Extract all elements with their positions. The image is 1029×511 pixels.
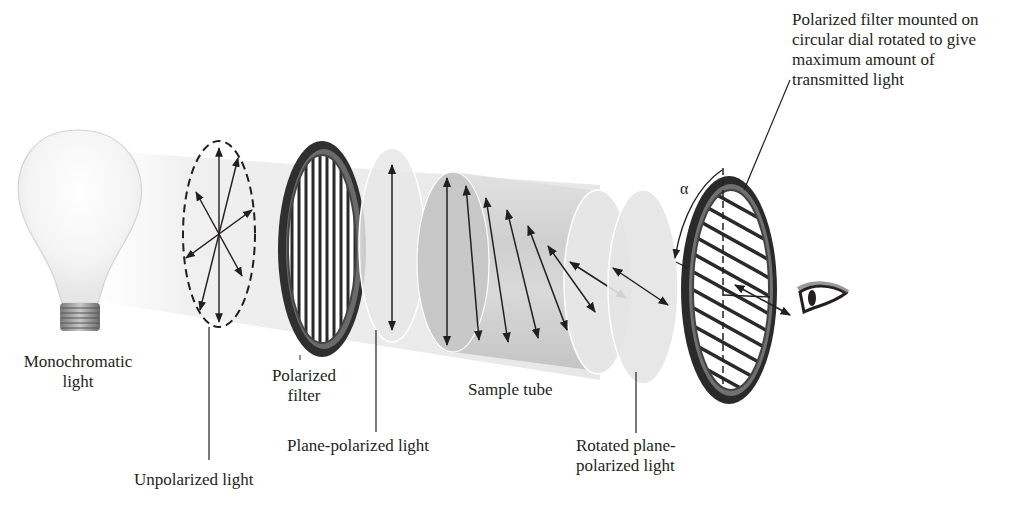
label-rotated-line2: polarized light <box>576 456 676 476</box>
label-polarizer: Polarized filter <box>264 366 344 406</box>
rotated-disc <box>608 190 678 433</box>
label-unpolarized: Unpolarized light <box>134 470 253 490</box>
label-analyzer-line4: transmitted light <box>792 70 978 90</box>
label-light-source-line1: Monochromatic <box>8 352 148 372</box>
label-analyzer-line2: circular dial rotated to give <box>792 30 978 50</box>
polarimeter-diagram: Monochromatic light Unpolarized light Po… <box>0 0 1029 511</box>
label-analyzer: Polarized filter mounted on circular dia… <box>792 10 978 90</box>
plane-polarized-disc <box>359 148 425 432</box>
rotation-angle-alpha: α <box>680 180 688 198</box>
analyzer-dial <box>675 80 790 410</box>
label-sample-tube: Sample tube <box>468 380 553 400</box>
label-analyzer-line1: Polarized filter mounted on <box>792 10 978 30</box>
polarizer-filter <box>278 141 366 357</box>
label-analyzer-line3: maximum amount of <box>792 50 978 70</box>
label-polarizer-line1: Polarized <box>264 366 344 386</box>
label-light-source: Monochromatic light <box>8 352 148 392</box>
label-light-source-line2: light <box>8 372 148 392</box>
eye-icon <box>798 283 848 312</box>
label-plane-polarized: Plane-polarized light <box>287 436 429 456</box>
label-rotated: Rotated plane- polarized light <box>576 436 676 476</box>
sample-tube <box>417 172 632 374</box>
label-rotated-line1: Rotated plane- <box>576 436 676 456</box>
label-polarizer-line2: filter <box>264 386 344 406</box>
leader-analyzer <box>744 80 790 190</box>
